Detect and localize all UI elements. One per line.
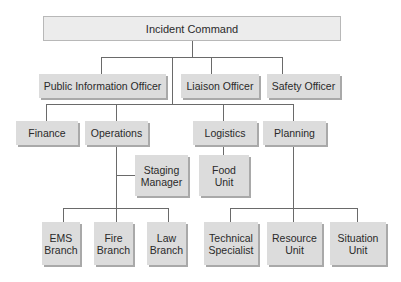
connector-finance-stem xyxy=(46,104,47,121)
connector-logistics-food xyxy=(223,145,224,155)
staging-manager-line1: Staging xyxy=(144,164,180,176)
public-information-officer-label: Public Information Officer xyxy=(44,80,162,92)
situation-unit-box: Situation Unit xyxy=(330,222,386,265)
food-unit-line1: Food xyxy=(212,164,236,176)
ems-branch-line1: EMS xyxy=(50,232,73,244)
connector-staging-branch xyxy=(116,175,135,176)
operations-box: Operations xyxy=(85,121,148,145)
technical-specialist-box: Technical Specialist xyxy=(204,222,258,265)
resource-unit-line1: Resource xyxy=(272,232,317,244)
public-information-officer-box: Public Information Officer xyxy=(39,74,166,98)
fire-branch-box: Fire Branch xyxy=(94,222,133,265)
logistics-box: Logistics xyxy=(193,121,257,145)
connector-law-stem xyxy=(168,208,169,222)
finance-label: Finance xyxy=(28,127,65,139)
staging-manager-box: Staging Manager xyxy=(135,155,188,196)
connector-command-staff-bar xyxy=(101,57,283,58)
connector-trunk xyxy=(172,57,173,105)
connector-operations-stem xyxy=(116,104,117,121)
situation-unit-line1: Situation xyxy=(338,232,379,244)
connector-planning-stem xyxy=(293,104,294,121)
logistics-label: Logistics xyxy=(205,127,246,139)
law-branch-box: Law Branch xyxy=(147,222,186,265)
incident-command-box: Incident Command xyxy=(43,16,341,41)
safety-officer-box: Safety Officer xyxy=(267,74,340,98)
law-branch-line2: Branch xyxy=(150,244,183,256)
fire-branch-line1: Fire xyxy=(104,232,122,244)
connector-planning-bar xyxy=(230,208,358,209)
connector-safety-stem xyxy=(282,57,283,74)
resource-unit-box: Resource Unit xyxy=(267,222,322,265)
technical-specialist-line1: Technical xyxy=(209,232,253,244)
liaison-officer-label: Liaison Officer xyxy=(187,80,254,92)
finance-box: Finance xyxy=(16,121,78,145)
planning-label: Planning xyxy=(274,127,315,139)
connector-sections-bar xyxy=(46,104,294,105)
connector-ic-stem xyxy=(192,41,193,57)
safety-officer-label: Safety Officer xyxy=(272,80,335,92)
planning-box: Planning xyxy=(263,121,326,145)
resource-unit-line2: Unit xyxy=(285,244,304,256)
ems-branch-box: EMS Branch xyxy=(42,222,80,265)
law-branch-line1: Law xyxy=(157,232,176,244)
food-unit-line2: Unit xyxy=(215,176,234,188)
ems-branch-line2: Branch xyxy=(44,244,77,256)
connector-planning-down xyxy=(293,145,294,222)
connector-pio-stem xyxy=(101,57,102,74)
fire-branch-line2: Branch xyxy=(97,244,130,256)
connector-operations-down xyxy=(116,145,117,208)
connector-technical-stem xyxy=(230,208,231,222)
liaison-officer-box: Liaison Officer xyxy=(181,74,259,98)
situation-unit-line2: Unit xyxy=(349,244,368,256)
connector-situation-stem xyxy=(357,208,358,222)
connector-liaison-stem xyxy=(211,57,212,74)
operations-label: Operations xyxy=(91,127,142,139)
staging-manager-line2: Manager xyxy=(141,176,182,188)
connector-logistics-stem xyxy=(223,104,224,121)
connector-ems-stem xyxy=(63,208,64,222)
incident-command-label: Incident Command xyxy=(146,23,238,35)
food-unit-box: Food Unit xyxy=(199,155,249,196)
connector-fire-stem xyxy=(116,208,117,222)
technical-specialist-line2: Specialist xyxy=(209,244,254,256)
